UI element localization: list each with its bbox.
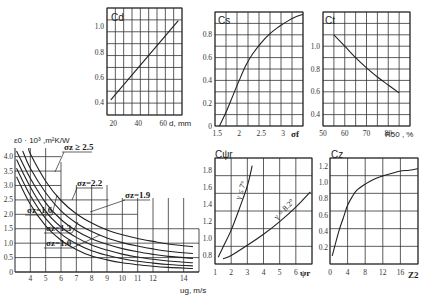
cs-curve bbox=[219, 14, 303, 126]
main-y-tick: 3.5 bbox=[4, 167, 14, 176]
cd-y-tick: 0.8 bbox=[95, 48, 105, 57]
main-y-tick: 0 bbox=[9, 268, 13, 277]
cpsi-x-tick: 3 bbox=[245, 268, 249, 277]
cz-y-tick: 0.4 bbox=[319, 227, 329, 236]
cs-y-tick: 0.8 bbox=[203, 30, 213, 39]
main-x-tick: 5 bbox=[44, 274, 48, 283]
main-y-tick: 1.0 bbox=[4, 239, 14, 248]
cd-grid bbox=[107, 8, 182, 115]
cz-x-tick: 8 bbox=[363, 268, 367, 277]
cz-y-tick: 0.2 bbox=[319, 243, 329, 252]
ct-y-tick: 1.0 bbox=[311, 42, 321, 51]
main-y-tick: 2.0 bbox=[4, 210, 14, 219]
cd-y-tick: 0.6 bbox=[95, 73, 105, 82]
ct-y-label: Ct bbox=[325, 15, 335, 26]
main-y-tick: 2.5 bbox=[4, 195, 14, 204]
main-x-tick: 6 bbox=[59, 274, 63, 283]
main-x-tick: 12 bbox=[149, 274, 157, 283]
cz-x-label: Z2 bbox=[408, 270, 419, 280]
ct-grid bbox=[323, 12, 410, 126]
cz-y-tick: 0.8 bbox=[319, 194, 329, 203]
cz-grid bbox=[330, 158, 418, 264]
cd-x-tick: 60 bbox=[160, 119, 168, 128]
cd-frame bbox=[107, 8, 182, 115]
cpsi-x-label: ψr bbox=[300, 268, 310, 278]
cs-grid bbox=[215, 12, 303, 126]
ct-y-tick: 0.8 bbox=[311, 65, 321, 74]
cpsi-y-tick: 1.8 bbox=[203, 166, 213, 175]
main-x-tick: 4 bbox=[28, 274, 32, 283]
cs-x-tick: 3 bbox=[281, 129, 285, 138]
cz-x-tick: 16 bbox=[397, 268, 405, 277]
cpsi-x-tick: 5 bbox=[278, 268, 282, 277]
cs-x-tick: 2.5 bbox=[257, 129, 267, 138]
cz-y-tick: 1.2 bbox=[319, 162, 329, 171]
cd-x-tick: 20 bbox=[110, 119, 118, 128]
ct-x-tick: 70 bbox=[363, 129, 371, 138]
cd-x-label: d, mm bbox=[169, 119, 192, 128]
main-x-tick: 8 bbox=[90, 274, 94, 283]
cpsi-y-tick: 0.8 bbox=[203, 251, 213, 260]
cpsi-y-tick: 1.0 bbox=[203, 234, 213, 243]
cpsi-y-tick: 1.6 bbox=[203, 183, 213, 192]
main-x-tick: 14 bbox=[180, 274, 188, 283]
cz-y-tick: 0.6 bbox=[319, 211, 329, 220]
cz-y-tick: 1.0 bbox=[319, 178, 329, 187]
cd-y-tick: 0.4 bbox=[95, 98, 105, 107]
cs-y-tick: 0.6 bbox=[203, 53, 213, 62]
annotation-sigma-1-3: σz=1.3 bbox=[46, 223, 72, 233]
ct-x-label: R50 , % bbox=[385, 130, 413, 139]
cz-x-tick: 0 bbox=[328, 268, 332, 277]
chart-canvas: 0.40.60.81.0204060Cdd, mm00.20.40.60.81.… bbox=[0, 0, 427, 297]
cs-y-label: Cs bbox=[218, 15, 230, 26]
cz-x-tick: 12 bbox=[379, 268, 387, 277]
cpsi-x-tick: 4 bbox=[262, 268, 266, 277]
annotation-sigma-1-9: σz=1.9 bbox=[125, 190, 151, 200]
main-y-tick: 0.5 bbox=[4, 253, 14, 262]
cpsi-x-tick: 1 bbox=[213, 268, 217, 277]
cpsi-x-tick: 2 bbox=[229, 268, 233, 277]
cs-y-tick: 0.2 bbox=[203, 99, 213, 108]
cpsi-curve-gamma82 bbox=[223, 192, 310, 259]
cz-curve bbox=[332, 169, 418, 256]
cs-x-label: σf bbox=[291, 129, 300, 139]
cpsi-y-label: Cψr bbox=[215, 149, 233, 160]
cpsi-grid bbox=[215, 158, 312, 264]
main-y-tick: 4.0 bbox=[4, 152, 14, 161]
cd-x-tick: 40 bbox=[135, 119, 143, 128]
cpsi-x-tick: 6 bbox=[294, 268, 298, 277]
cz-x-tick: 4 bbox=[346, 268, 350, 277]
main-x-tick: 9 bbox=[105, 274, 109, 283]
annotation-sigma-1-0: σz=1.0 bbox=[46, 238, 72, 248]
annotation-sigma-2-5: σz ≥ 2.5 bbox=[64, 142, 94, 152]
cd-curve bbox=[111, 21, 179, 100]
ct-y-tick: 0.6 bbox=[311, 87, 321, 96]
main-y-tick: 1.5 bbox=[4, 224, 14, 233]
cpsi-y-tick: 1.4 bbox=[203, 200, 213, 209]
main-x-tick: 7 bbox=[74, 274, 78, 283]
annotation-sigma-2-2: σz=2.2 bbox=[77, 178, 103, 188]
annotation-sigma-1-6: σz=1.6 bbox=[27, 205, 53, 215]
cd-y-tick: 1.0 bbox=[95, 22, 105, 31]
ct-x-tick: 60 bbox=[341, 129, 349, 138]
main-x-tick: 10 bbox=[119, 274, 127, 283]
ct-y-tick: 0.4 bbox=[311, 110, 321, 119]
main-y-tick: 3.0 bbox=[4, 181, 14, 190]
cs-y-tick: 0.4 bbox=[203, 76, 213, 85]
cd-y-label: Cd bbox=[111, 12, 124, 23]
cz-y-label: Cz bbox=[331, 149, 343, 160]
cs-x-tick: 1.5 bbox=[213, 129, 223, 138]
main-x-tick: 11 bbox=[134, 274, 141, 283]
main-y-label: ε0 · 10³ ,m²K/W bbox=[14, 136, 70, 145]
cs-x-tick: 2 bbox=[237, 129, 241, 138]
cpsi-y-tick: 1.2 bbox=[203, 217, 213, 226]
ct-x-tick: 50 bbox=[319, 129, 327, 138]
main-x-label: ug, m/s bbox=[180, 286, 206, 295]
